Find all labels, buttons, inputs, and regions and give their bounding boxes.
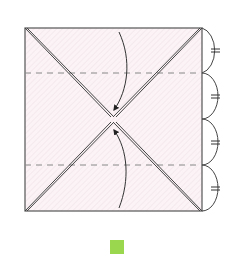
equal-tick-marks xyxy=(211,49,220,190)
equal-division-arcs xyxy=(202,28,218,211)
step-marker xyxy=(110,240,124,254)
